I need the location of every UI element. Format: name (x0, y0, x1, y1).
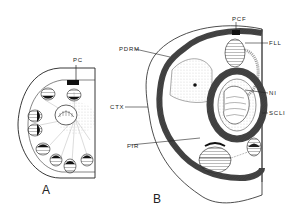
diagram-drawing (0, 0, 302, 213)
label-fll: FLL (269, 40, 282, 46)
panel-label-b: B (153, 193, 161, 205)
label-ni: NI (269, 90, 277, 96)
label-ctx: CTX (110, 104, 124, 110)
panel-a-drawing (18, 65, 96, 178)
label-scli: SCLI (269, 110, 286, 116)
label-pdrm: PDRM (119, 46, 140, 52)
panel-b-drawing (125, 22, 268, 203)
label-fir: FIR (127, 143, 139, 149)
figure: PC PDRM CTX FIR PCF FLL NI SCLI A B (0, 0, 302, 213)
label-pcf: PCF (232, 16, 246, 22)
label-pc: PC (73, 57, 83, 63)
panel-label-a: A (42, 184, 50, 196)
